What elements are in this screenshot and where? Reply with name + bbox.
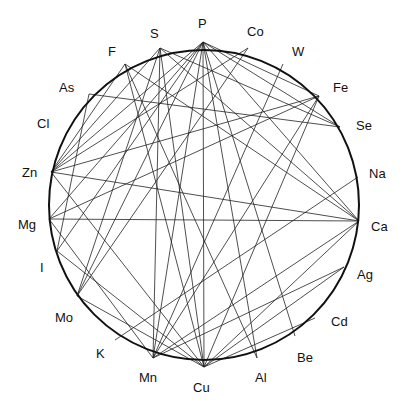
chord-p-be	[203, 42, 295, 336]
chord-p-se	[203, 42, 340, 127]
node-label-ca: Ca	[371, 219, 388, 234]
node-label-al: Al	[255, 370, 267, 385]
node-label-s: S	[150, 26, 159, 41]
node-label-na: Na	[369, 166, 386, 181]
chord-p-mo	[77, 42, 203, 296]
node-label-ag: Ag	[357, 267, 373, 282]
node-label-k: K	[96, 346, 105, 361]
chord-fe-mg	[49, 96, 319, 219]
node-label-i: I	[40, 260, 44, 275]
node-label-fe: Fe	[333, 80, 348, 95]
chord-p-cu	[203, 42, 204, 367]
node-label-zn: Zn	[22, 165, 37, 180]
chord-diagram: PCoWFeSeNaCaAgCdBeAlCuMnKMoIMgZnClAsFS	[0, 0, 403, 409]
node-label-be: Be	[297, 350, 313, 365]
node-label-mg: Mg	[18, 217, 36, 232]
node-label-co: Co	[247, 24, 264, 39]
chord-lines	[49, 42, 359, 367]
chord-w-mn	[153, 64, 283, 358]
node-label-cd: Cd	[331, 314, 348, 329]
node-label-mn: Mn	[139, 370, 157, 385]
node-label-as: As	[59, 80, 75, 95]
chord-s-mn	[153, 48, 160, 358]
node-label-cl: Cl	[37, 116, 49, 131]
chord-zn-ca	[51, 172, 359, 221]
chord-ca-cu	[204, 221, 359, 367]
node-label-cu: Cu	[193, 380, 210, 395]
node-label-w: W	[292, 44, 305, 59]
node-label-f: F	[108, 44, 116, 59]
chord-s-ca	[160, 48, 359, 221]
node-label-mo: Mo	[55, 310, 73, 325]
node-label-se: Se	[356, 118, 372, 133]
chord-mg-mn	[49, 219, 153, 358]
chord-i-cu	[57, 251, 204, 367]
node-label-p: P	[198, 16, 207, 31]
chord-p-al	[203, 42, 257, 358]
chord-p-zn	[51, 42, 203, 172]
chord-co-mo	[77, 48, 248, 296]
chord-mg-ca	[49, 219, 359, 221]
chord-fe-zn	[51, 96, 319, 172]
